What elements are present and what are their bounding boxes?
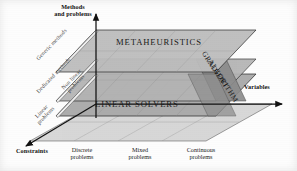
- tick-label-continuous-problems: Continuous problems: [170, 147, 232, 160]
- tick-continuous-line2: problems: [189, 153, 212, 160]
- axis-label-methods: Methods and problems: [42, 4, 104, 17]
- tick-label-mixed-problems: Mixed problems: [113, 147, 167, 160]
- tick-label-discrete-problems: Discrete problems: [55, 147, 109, 160]
- tick-mixed-line2: problems: [128, 153, 151, 160]
- axis-label-methods-line2: and problems: [54, 10, 91, 17]
- axis-label-variables: Variables: [234, 84, 280, 91]
- diagram-canvas: Methods and problems Variables Constrain…: [0, 0, 297, 171]
- tick-discrete-line2: problems: [70, 153, 93, 160]
- plane-label-linear-solvers: LINEAR SOLVERS: [95, 100, 179, 109]
- plane-label-metaheuristics: METAHEURISTICS: [116, 38, 202, 47]
- axis-label-constraints: Constraints: [2, 148, 62, 155]
